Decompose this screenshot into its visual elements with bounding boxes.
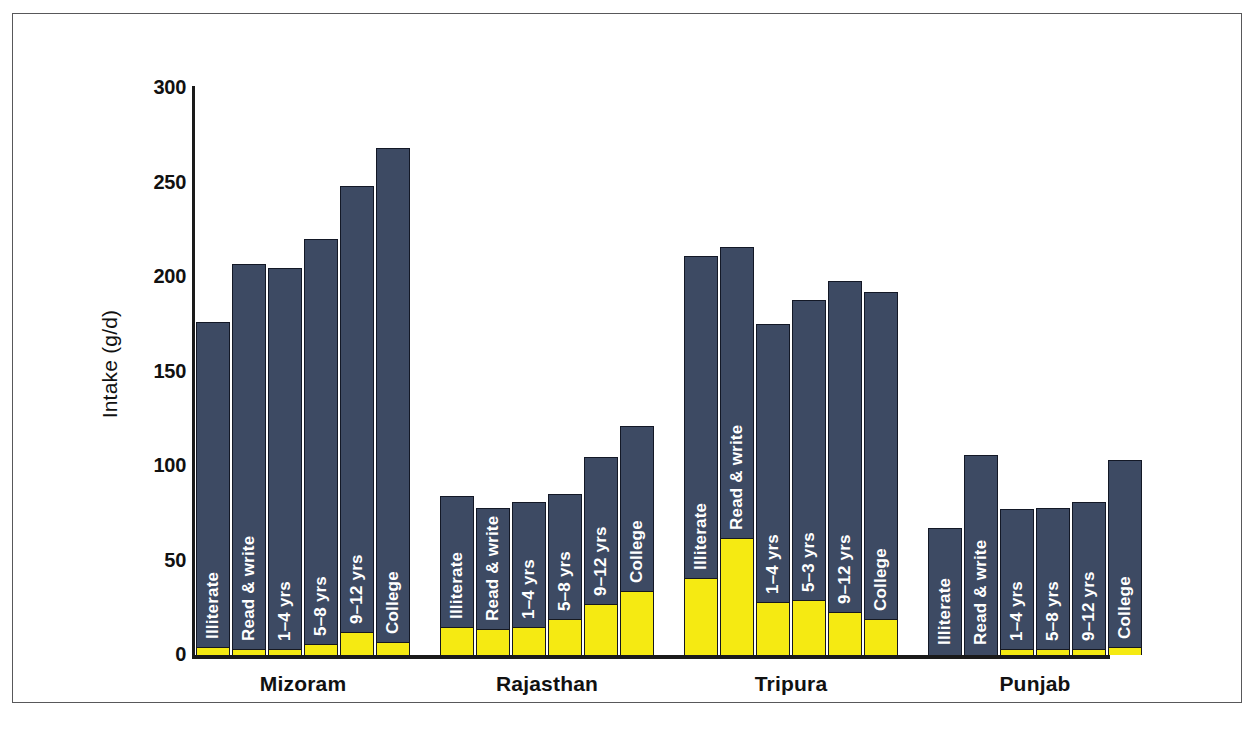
y-tick-100: 100 xyxy=(130,454,186,478)
bar-tripura-4[interactable]: 9–12 yrs xyxy=(828,281,862,655)
bar-tripura-3[interactable]: 5–3 yrs xyxy=(792,300,826,655)
bar-tripura-0[interactable]: Illiterate xyxy=(684,256,718,655)
y-tick-label: 200 xyxy=(142,265,186,288)
bar-lower-segment xyxy=(512,627,546,655)
y-tick-label: 50 xyxy=(142,549,186,572)
bar-upper-segment xyxy=(1108,460,1142,655)
group-label-mizoram: Mizoram xyxy=(196,672,410,696)
bar-upper-segment xyxy=(964,455,998,655)
bar-lower-segment xyxy=(756,602,790,655)
bar-upper-segment xyxy=(340,186,374,655)
bar-punjab-1[interactable]: Read & write xyxy=(964,455,998,655)
y-tick-label: 300 xyxy=(142,76,186,99)
bar-upper-segment xyxy=(928,528,962,655)
bar-mizoram-4[interactable]: 9–12 yrs xyxy=(340,186,374,655)
bar-lower-segment xyxy=(476,629,510,655)
bar-upper-segment xyxy=(196,322,230,655)
bar-upper-segment xyxy=(864,292,898,655)
bar-rajasthan-5[interactable]: College xyxy=(620,426,654,655)
bar-mizoram-2[interactable]: 1–4 yrs xyxy=(268,268,302,655)
bar-punjab-0[interactable]: Illiterate xyxy=(928,528,962,655)
y-tick-label: 250 xyxy=(142,171,186,194)
bar-lower-segment xyxy=(548,619,582,655)
x-axis-line xyxy=(192,655,1110,659)
y-tick-label: 150 xyxy=(142,360,186,383)
bar-punjab-5[interactable]: College xyxy=(1108,460,1142,655)
bar-upper-segment xyxy=(828,281,862,655)
bar-rajasthan-4[interactable]: 9–12 yrs xyxy=(584,457,618,655)
bar-upper-segment xyxy=(1072,502,1106,655)
bar-mizoram-3[interactable]: 5–8 yrs xyxy=(304,239,338,655)
bar-lower-segment xyxy=(1108,647,1142,655)
bar-lower-segment xyxy=(584,604,618,655)
group-label-punjab: Punjab xyxy=(928,672,1142,696)
bar-mizoram-1[interactable]: Read & write xyxy=(232,264,266,655)
y-tick-0: 0 xyxy=(130,643,186,667)
bar-lower-segment xyxy=(376,642,410,655)
y-tick-250: 250 xyxy=(130,171,186,195)
bar-mizoram-5[interactable]: College xyxy=(376,148,410,655)
bar-upper-segment xyxy=(1036,508,1070,655)
bar-rajasthan-2[interactable]: 1–4 yrs xyxy=(512,502,546,655)
y-axis-line xyxy=(192,86,195,658)
bar-upper-segment xyxy=(304,239,338,655)
bar-rajasthan-1[interactable]: Read & write xyxy=(476,508,510,655)
y-tick-label: 100 xyxy=(142,454,186,477)
y-tick-50: 50 xyxy=(130,549,186,573)
bar-lower-segment xyxy=(792,600,826,655)
figure-root: Intake (g/d) 050100150200250300 Illitera… xyxy=(0,0,1256,732)
bar-tripura-5[interactable]: College xyxy=(864,292,898,655)
bar-upper-segment xyxy=(232,264,266,655)
y-tick-150: 150 xyxy=(130,360,186,384)
bar-lower-segment xyxy=(340,632,374,655)
y-axis-title: Intake (g/d) xyxy=(98,244,122,484)
bar-upper-segment xyxy=(376,148,410,655)
group-label-rajasthan: Rajasthan xyxy=(440,672,654,696)
y-tick-200: 200 xyxy=(130,265,186,289)
bar-upper-segment xyxy=(1000,509,1034,655)
bar-tripura-1[interactable]: Read & write xyxy=(720,247,754,655)
y-tick-300: 300 xyxy=(130,76,186,100)
y-tick-label: 0 xyxy=(142,643,186,666)
bar-punjab-4[interactable]: 9–12 yrs xyxy=(1072,502,1106,655)
bar-rajasthan-3[interactable]: 5–8 yrs xyxy=(548,494,582,655)
bar-chart-plot: Intake (g/d) 050100150200250300 Illitera… xyxy=(0,0,1256,732)
bar-upper-segment xyxy=(268,268,302,655)
bar-mizoram-0[interactable]: Illiterate xyxy=(196,322,230,655)
bar-lower-segment xyxy=(440,627,474,655)
bar-lower-segment xyxy=(864,619,898,655)
bar-tripura-2[interactable]: 1–4 yrs xyxy=(756,324,790,655)
bar-lower-segment xyxy=(828,612,862,655)
bar-rajasthan-0[interactable]: Illiterate xyxy=(440,496,474,655)
bar-punjab-3[interactable]: 5–8 yrs xyxy=(1036,508,1070,655)
bar-lower-segment xyxy=(684,578,718,655)
bar-lower-segment xyxy=(304,644,338,655)
bar-lower-segment xyxy=(196,647,230,655)
bar-punjab-2[interactable]: 1–4 yrs xyxy=(1000,509,1034,655)
bar-lower-segment xyxy=(620,591,654,655)
bar-lower-segment xyxy=(720,538,754,655)
group-label-tripura: Tripura xyxy=(684,672,898,696)
